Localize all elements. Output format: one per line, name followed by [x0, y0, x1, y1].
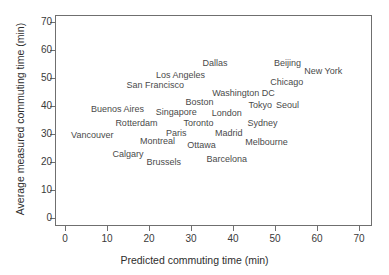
- x-tick-label: 30: [185, 233, 196, 244]
- y-tick-label: 70: [41, 16, 52, 27]
- x-tick-mark: [149, 226, 150, 231]
- data-point-label: Beijing: [274, 58, 301, 67]
- y-tick-label: 60: [41, 44, 52, 55]
- data-point-label: London: [212, 109, 242, 118]
- data-point-label: Dallas: [202, 58, 227, 67]
- data-point-label: Tokyo: [249, 100, 273, 109]
- x-tick-label: 60: [311, 233, 322, 244]
- data-point-label: Los Angeles: [156, 71, 205, 80]
- data-point-label: San Francisco: [127, 81, 185, 90]
- x-tick-mark: [317, 226, 318, 231]
- data-point-label: Madrid: [215, 128, 243, 137]
- x-tick-mark: [233, 226, 234, 231]
- data-point-label: Barcelona: [206, 155, 247, 164]
- x-tick-mark: [359, 226, 360, 231]
- x-tick-label: 10: [101, 233, 112, 244]
- y-tick-label: 30: [41, 128, 52, 139]
- data-point-label: Buenos Aires: [91, 104, 144, 113]
- x-tick-label: 20: [143, 233, 154, 244]
- data-point-label: Washington DC: [212, 89, 275, 98]
- y-tick-label: 20: [41, 156, 52, 167]
- data-point-label: Brussels: [146, 158, 181, 167]
- x-tick-mark: [275, 226, 276, 231]
- data-point-label: Montreal: [140, 137, 175, 146]
- data-point-label: Seoul: [276, 100, 299, 109]
- data-point-label: Sydney: [247, 118, 277, 127]
- x-tick-label: 40: [227, 233, 238, 244]
- y-tick-label: 50: [41, 72, 52, 83]
- x-tick-mark: [191, 226, 192, 231]
- y-tick-label: 40: [41, 100, 52, 111]
- data-point-label: Vancouver: [71, 131, 113, 140]
- x-tick-label: 50: [269, 233, 280, 244]
- x-tick-mark: [65, 226, 66, 231]
- data-point-label: New York: [304, 67, 342, 76]
- y-axis-title: Average measured commuting time (min): [14, 4, 26, 234]
- data-point-label: Singapore: [156, 107, 197, 116]
- data-point-label: Rotterdam: [115, 118, 157, 127]
- scatter-plot-figure: 010203040506070 010203040506070 DallasBe…: [0, 0, 389, 275]
- y-tick-label: 10: [41, 184, 52, 195]
- data-point-label: Ottawa: [187, 141, 216, 150]
- data-point-label: Calgary: [112, 149, 143, 158]
- x-axis-title: Predicted commuting time (min): [0, 254, 389, 266]
- data-point-label: Boston: [185, 97, 213, 106]
- y-tick-label: 0: [46, 212, 52, 223]
- x-tick-label: 0: [62, 233, 68, 244]
- x-tick-label: 70: [353, 233, 364, 244]
- x-tick-mark: [107, 226, 108, 231]
- data-point-label: Toronto: [184, 118, 214, 127]
- data-point-label: Chicago: [270, 78, 303, 87]
- data-point-label: Melbourne: [245, 138, 288, 147]
